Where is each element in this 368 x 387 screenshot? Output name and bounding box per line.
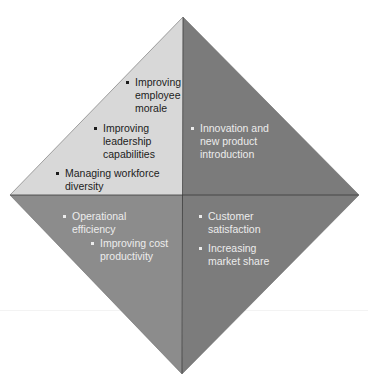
bullet-icon <box>56 172 59 175</box>
bullet-icon <box>191 127 194 130</box>
list-item: Operational efficiency <box>63 210 143 236</box>
bottom-right-list: Customer satisfaction Increasing market … <box>199 210 289 274</box>
list-item: Increasing market share <box>199 242 289 268</box>
bullet-icon <box>199 215 202 218</box>
bottom-left-list-2: Improving cost productivity <box>91 237 171 269</box>
list-item: Managing workforce diversity <box>56 167 176 193</box>
bullet-icon <box>63 215 66 218</box>
top-left-list: Improving employee morale <box>126 76 186 121</box>
bullet-icon <box>126 81 129 84</box>
list-item: Improving employee morale <box>126 76 186 115</box>
list-item: Innovation and new product introduction <box>191 122 281 161</box>
top-left-list-2: Improving leadership capabilities <box>94 122 164 167</box>
list-item: Improving leadership capabilities <box>94 122 164 161</box>
bullet-icon <box>199 247 202 250</box>
top-left-list-3: Managing workforce diversity <box>56 167 176 199</box>
bullet-icon <box>94 127 97 130</box>
top-right-list: Innovation and new product introduction <box>191 122 281 167</box>
list-item: Improving cost productivity <box>91 237 171 263</box>
bullet-icon <box>91 242 94 245</box>
list-item: Customer satisfaction <box>199 210 289 236</box>
